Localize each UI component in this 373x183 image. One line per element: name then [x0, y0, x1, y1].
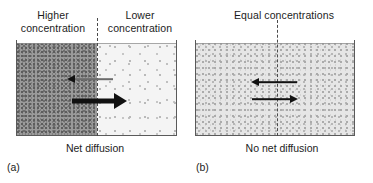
arrow-rightward-flux-a — [72, 93, 126, 109]
arrow-leftward-flux-b — [252, 77, 297, 87]
label-lower-line2: concentration — [108, 22, 172, 34]
arrow-shaft — [252, 98, 291, 100]
label-lower-concentration: Lower concentration — [100, 9, 180, 34]
label-lower-line1: Lower — [125, 9, 154, 21]
arrow-head — [114, 93, 127, 109]
region-low-concentration — [97, 43, 176, 135]
vessel-wall-left — [195, 40, 196, 136]
panel-a: Higher concentration Lower concentration — [0, 0, 190, 183]
label-equal-concentrations: Equal concentrations — [216, 9, 352, 22]
arrow-head — [251, 78, 259, 86]
diffusion-figure: Higher concentration Lower concentration — [0, 0, 373, 183]
vessel-wall-right — [176, 40, 177, 136]
region-equal-concentration — [196, 43, 354, 135]
label-higher-line2: concentration — [21, 22, 85, 34]
caption-panel-b: No net diffusion — [202, 142, 362, 155]
label-higher-line1: Higher — [37, 9, 69, 21]
fluid-surface-right — [97, 43, 176, 44]
caption-panel-a: Net diffusion — [10, 142, 180, 155]
vessel-wall-left — [16, 40, 17, 136]
arrow-head — [290, 95, 298, 103]
vessel-wall-bottom — [195, 135, 355, 136]
arrow-shaft — [74, 78, 113, 80]
region-high-concentration — [17, 43, 97, 135]
vessel-b — [195, 40, 355, 136]
fluid-surface — [196, 43, 354, 44]
panel-letter-a: (a) — [7, 161, 20, 173]
arrow-head — [67, 75, 75, 83]
arrow-rightward-flux-b — [252, 94, 297, 104]
fluid-surface-left — [17, 43, 97, 44]
arrow-shaft — [258, 81, 297, 83]
panel-b: Equal concentrations No net diffusion (b… — [188, 0, 373, 183]
panel-letter-b: (b) — [196, 161, 209, 173]
arrow-leftward-flux-a — [68, 74, 113, 84]
arrow-shaft — [72, 99, 115, 104]
label-higher-concentration: Higher concentration — [14, 9, 92, 34]
vessel-wall-right — [354, 40, 355, 136]
